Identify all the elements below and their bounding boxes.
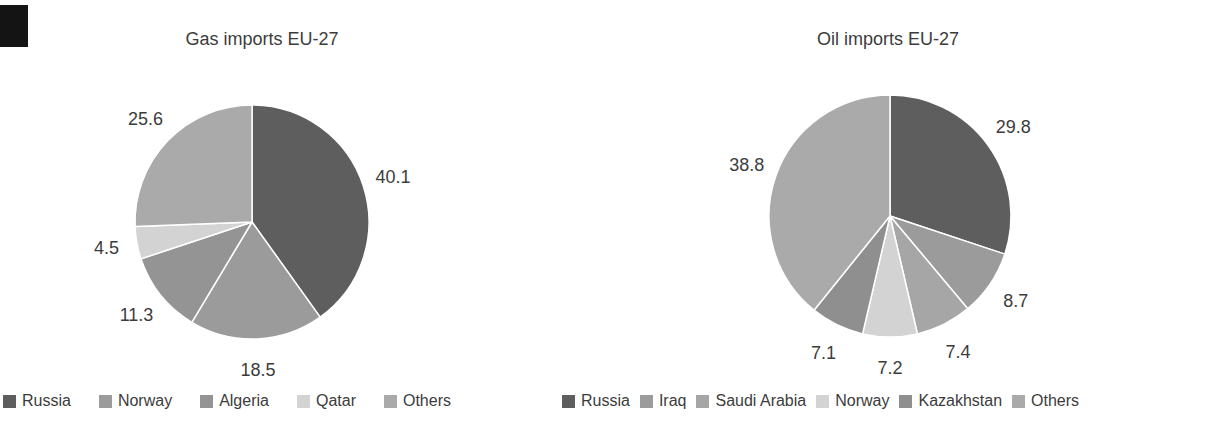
legend-label: Others: [403, 392, 451, 410]
legend-swatch-iraq: [640, 395, 653, 408]
gas-pie: 40.118.511.34.525.6: [94, 105, 411, 378]
data-label-algeria: 11.3: [120, 305, 154, 325]
data-label-saudi-arabia: 7.4: [945, 342, 970, 362]
legend-label: Russia: [22, 392, 71, 410]
legend-label: Russia: [581, 392, 630, 410]
legend-swatch-norway: [816, 395, 829, 408]
data-label-qatar: 4.5: [94, 238, 119, 258]
legend-label: Algeria: [219, 392, 269, 410]
data-label-russia: 29.8: [996, 117, 1031, 137]
legend-swatch-qatar: [297, 395, 310, 408]
legend-label: Norway: [118, 392, 172, 410]
legend-item-russia: Russia: [3, 392, 71, 410]
legend-label: Qatar: [316, 392, 356, 410]
legend-swatch-others: [1012, 395, 1025, 408]
data-label-others: 25.6: [128, 109, 163, 129]
pie-charts-svg: 40.118.511.34.525.6 29.88.77.47.27.138.8: [0, 0, 1222, 378]
data-label-norway: 7.2: [877, 358, 902, 378]
legend-swatch-norway: [99, 395, 112, 408]
legend-label: Norway: [835, 392, 889, 410]
figure-canvas: Gas imports EU-27 Oil imports EU-27 40.1…: [0, 0, 1222, 425]
data-label-russia: 40.1: [375, 167, 410, 187]
legend-item-russia: Russia: [562, 392, 630, 410]
oil-pie: 29.88.77.47.27.138.8: [729, 95, 1031, 378]
legend-item-iraq: Iraq: [640, 392, 687, 410]
legend-swatch-others: [384, 395, 397, 408]
legend-item-others: Others: [1012, 392, 1079, 410]
legend-item-norway: Norway: [99, 392, 172, 410]
legend-label: Iraq: [659, 392, 687, 410]
data-label-iraq: 8.7: [1003, 291, 1028, 311]
legend-swatch-russia: [562, 395, 575, 408]
legend-item-kazakhstan: Kazakhstan: [899, 392, 1002, 410]
legend-swatch-russia: [3, 395, 16, 408]
legend-swatch-algeria: [200, 395, 213, 408]
legend-item-saudi-arabia: Saudi Arabia: [696, 392, 806, 410]
oil-legend: RussiaIraqSaudi ArabiaNorwayKazakhstanOt…: [562, 392, 1079, 410]
legend-item-qatar: Qatar: [297, 392, 356, 410]
data-label-others: 38.8: [729, 155, 764, 175]
data-label-kazakhstan: 7.1: [811, 343, 836, 363]
legend-label: Kazakhstan: [918, 392, 1002, 410]
legend-label: Others: [1031, 392, 1079, 410]
legend-item-algeria: Algeria: [200, 392, 269, 410]
gas-legend: RussiaNorwayAlgeriaQatarOthers: [3, 392, 451, 410]
data-label-norway: 18.5: [240, 360, 275, 378]
legend-item-others: Others: [384, 392, 451, 410]
legend-item-norway: Norway: [816, 392, 889, 410]
legend-swatch-kazakhstan: [899, 395, 912, 408]
legend-swatch-saudi-arabia: [696, 395, 709, 408]
legend-label: Saudi Arabia: [715, 392, 806, 410]
